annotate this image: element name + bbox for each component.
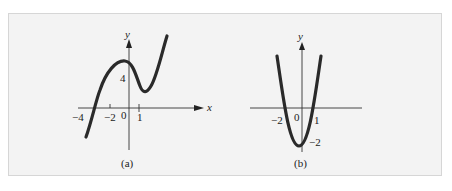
caption-a: (a): [121, 157, 134, 170]
tick-a-y4: 4: [120, 72, 126, 84]
y-label-a: y: [124, 28, 130, 40]
tick-a-neg2: −2: [104, 111, 116, 123]
y-axis-arrow-icon: [299, 42, 305, 50]
figure-svg: y x −4 −2 0 1 4 (a) y −2 0 1 −2 (b): [0, 0, 452, 191]
graph-a: y x −4 −2 0 1 4 (a): [72, 28, 212, 170]
tick-a-1: 1: [137, 111, 143, 123]
caption-b: (b): [294, 157, 307, 170]
y-label-b: y: [297, 30, 303, 42]
tick-b-0: 0: [294, 111, 300, 123]
tick-a-neg4: −4: [72, 111, 84, 123]
graph-b: y −2 0 1 −2 (b): [250, 30, 362, 170]
x-label-a: x: [206, 101, 212, 113]
tick-a-0: 0: [121, 109, 127, 121]
curve-b: [277, 56, 321, 146]
y-axis-arrow-icon: [126, 39, 132, 48]
curve-a: [86, 36, 167, 137]
x-axis-arrow-icon: [194, 105, 204, 111]
tick-b-yneg2: −2: [309, 136, 321, 148]
tick-b-neg2: −2: [271, 114, 283, 126]
tick-b-1: 1: [314, 114, 320, 126]
